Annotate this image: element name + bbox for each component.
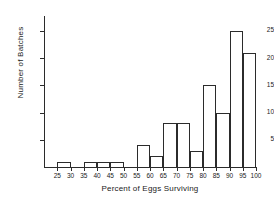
histogram-bar	[190, 151, 203, 167]
x-tick-mark	[150, 167, 151, 171]
x-tick-mark	[243, 167, 244, 171]
histogram-bar	[150, 156, 163, 167]
histogram-bar	[84, 162, 97, 167]
histogram-bar	[137, 145, 150, 167]
y-axis-title: Number of Batches	[16, 0, 25, 133]
x-tick-mark	[57, 167, 58, 171]
x-axis-title: Percent of Eggs Surviving	[44, 184, 256, 193]
x-tick-mark	[163, 167, 164, 171]
y-axis-line	[44, 16, 45, 168]
x-tick-mark	[177, 167, 178, 171]
x-tick-mark	[256, 167, 257, 171]
histogram-bar	[216, 113, 229, 167]
x-tick-mark	[190, 167, 191, 171]
y-tick-mark	[40, 140, 44, 141]
x-tick-mark	[71, 167, 72, 171]
x-tick-mark	[216, 167, 217, 171]
histogram-bar	[110, 162, 123, 167]
histogram-bar	[97, 162, 110, 167]
y-tick-label: 25	[240, 27, 274, 34]
x-tick-mark	[97, 167, 98, 171]
histogram-chart: 510152025 253035404550556065707580859095…	[0, 0, 274, 199]
x-tick-mark	[84, 167, 85, 171]
histogram-bar	[230, 31, 243, 167]
y-tick-mark	[40, 31, 44, 32]
y-tick-mark	[40, 58, 44, 59]
plot-area: 510152025 253035404550556065707580859095…	[0, 0, 274, 199]
histogram-bar	[203, 85, 216, 167]
x-tick-mark	[110, 167, 111, 171]
x-tick-mark	[203, 167, 204, 171]
histogram-bar	[177, 123, 190, 167]
histogram-bar	[243, 53, 256, 167]
y-tick-mark	[40, 85, 44, 86]
histogram-bar	[57, 162, 70, 167]
histogram-bar	[163, 123, 176, 167]
x-tick-mark	[124, 167, 125, 171]
x-tick-mark	[137, 167, 138, 171]
x-tick-label: 100	[246, 173, 266, 180]
y-tick-mark	[40, 113, 44, 114]
x-tick-mark	[230, 167, 231, 171]
